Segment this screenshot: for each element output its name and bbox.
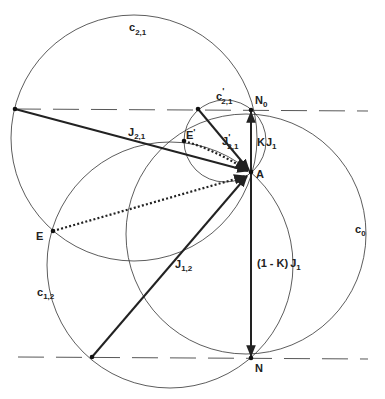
label-c0: c0 bbox=[355, 223, 366, 238]
circle-c0 bbox=[126, 114, 366, 354]
label-KJ1: KJ1 bbox=[257, 136, 277, 151]
point-E bbox=[51, 229, 56, 234]
label-N: N bbox=[255, 362, 263, 374]
diagram-canvas: c2,1 c'2,1 N0 J2,1 J'2,1 E' KJ1 A E c0 J… bbox=[0, 0, 385, 399]
label-c21-prime: c'2,1 bbox=[216, 86, 233, 106]
point-left-lower bbox=[90, 355, 95, 360]
point-N0 bbox=[249, 108, 254, 113]
vector-J12 bbox=[92, 176, 247, 357]
point-A bbox=[249, 170, 254, 175]
label-E: E bbox=[36, 230, 43, 242]
lower-dashed-line bbox=[18, 357, 368, 359]
label-E-prime: E' bbox=[186, 127, 195, 141]
point-c21p-top bbox=[196, 107, 201, 112]
dotted-vector-E-A bbox=[53, 176, 246, 231]
label-J21-prime: J'2,1 bbox=[222, 132, 239, 151]
point-N bbox=[249, 356, 254, 361]
label-J12: J1,2 bbox=[175, 258, 193, 273]
upper-dashed-line bbox=[15, 109, 368, 111]
label-N0: N0 bbox=[255, 94, 268, 109]
label-one-minus-K-J1: (1 - K)J1 bbox=[257, 257, 301, 272]
label-c12: c1,2 bbox=[37, 286, 55, 301]
label-A: A bbox=[256, 168, 264, 180]
point-left-upper bbox=[13, 107, 18, 112]
label-c21: c2,1 bbox=[129, 21, 147, 37]
